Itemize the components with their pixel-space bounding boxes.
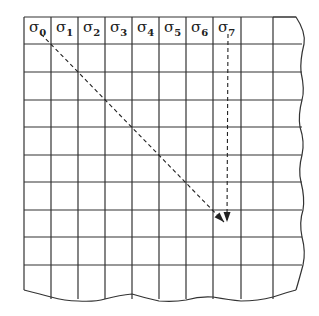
vertical-arrow xyxy=(227,34,228,222)
sigma-index: 7 xyxy=(228,27,235,38)
sigma-label: σ0 xyxy=(29,20,46,38)
sigma-symbol: σ xyxy=(137,18,147,36)
sigma-symbol: σ xyxy=(83,18,93,36)
sigma-symbol: σ xyxy=(164,18,174,36)
sigma-index: 2 xyxy=(93,27,100,38)
torn-right-edge xyxy=(273,17,304,290)
sigma-symbol: σ xyxy=(110,18,120,36)
sigma-symbol: σ xyxy=(56,18,66,36)
sigma-index: 0 xyxy=(39,27,46,38)
sigma-index: 3 xyxy=(120,27,127,38)
arrowhead-icon xyxy=(224,212,231,222)
sigma-label: σ6 xyxy=(191,20,208,38)
sigma-label: σ7 xyxy=(218,20,235,38)
sigma-label: σ5 xyxy=(164,20,181,38)
torn-bottom-edge xyxy=(24,290,296,301)
grid-diagram xyxy=(0,0,319,316)
sigma-symbol: σ xyxy=(29,18,39,36)
sigma-label: σ3 xyxy=(110,20,127,38)
arrowhead-icon xyxy=(215,212,224,222)
sigma-index: 4 xyxy=(147,27,154,38)
sigma-symbol: σ xyxy=(218,18,228,36)
sigma-label: σ4 xyxy=(137,20,154,38)
sigma-index: 1 xyxy=(66,27,73,38)
sigma-label: σ1 xyxy=(56,20,73,38)
sigma-label: σ2 xyxy=(83,20,100,38)
arrows xyxy=(41,34,231,222)
sigma-index: 6 xyxy=(201,27,208,38)
sigma-symbol: σ xyxy=(191,18,201,36)
sigma-index: 5 xyxy=(174,27,181,38)
